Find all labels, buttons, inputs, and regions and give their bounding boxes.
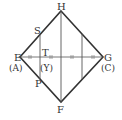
geometry-diagram: H S E (A) T (Y) G (C) P F	[0, 0, 122, 120]
label-C: (C)	[101, 63, 115, 73]
label-F: F	[57, 104, 64, 115]
rhombus-EHGF	[20, 11, 103, 102]
label-H: H	[57, 1, 66, 12]
label-E: E	[14, 52, 21, 63]
label-P: P	[35, 78, 42, 89]
label-G: G	[104, 52, 112, 63]
label-Y: (Y)	[40, 63, 53, 73]
label-T: T	[42, 47, 49, 58]
label-A: (A)	[9, 63, 23, 73]
label-S: S	[34, 25, 41, 36]
